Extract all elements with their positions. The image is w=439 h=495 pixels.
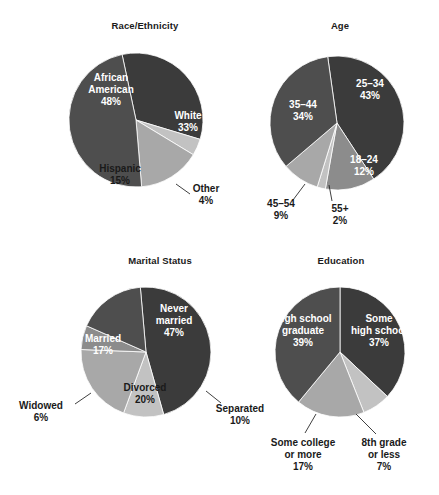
slice-label-age-2: 55+2% <box>332 203 349 226</box>
chart-title-age: Age <box>331 20 349 31</box>
chart-title-race-ethnicity: Race/Ethnicity <box>112 20 179 31</box>
slice-label-race-ethnicity-0: White33% <box>174 110 202 133</box>
chart-title-education: Education <box>318 255 365 266</box>
chart-title-marital-status: Marital Status <box>128 255 192 266</box>
pie-chart-figure: Race/EthnicityWhite33%Other4%Hispanic15%… <box>0 0 439 495</box>
